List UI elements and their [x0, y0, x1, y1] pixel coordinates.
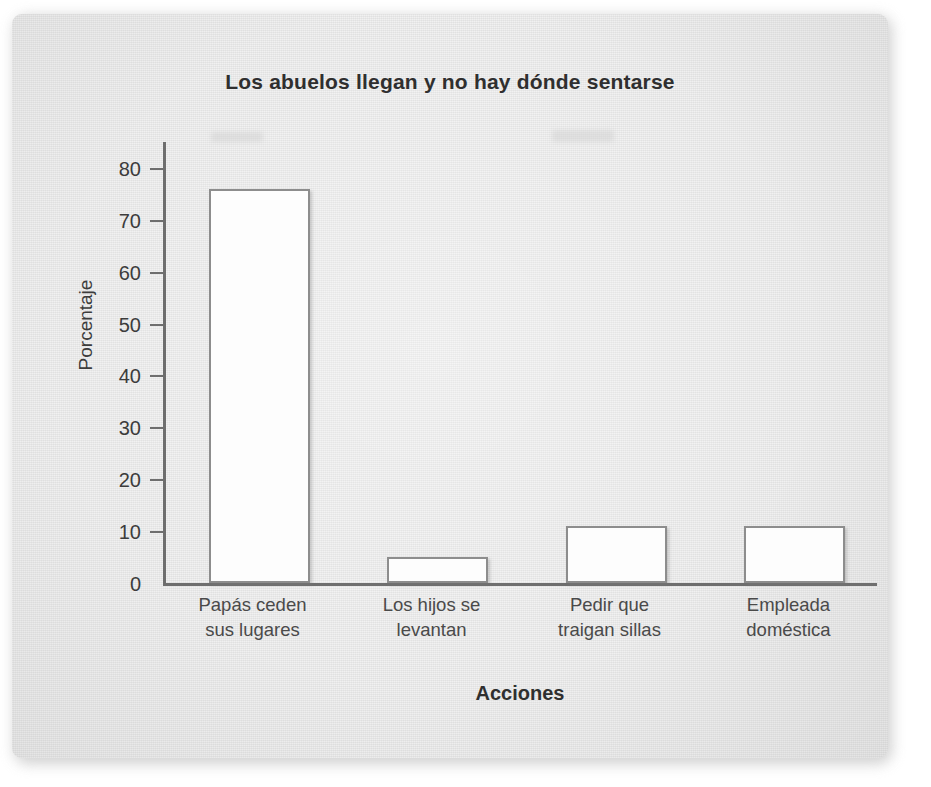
scan-smudge-left [211, 132, 263, 142]
y-tick-label: 70 [119, 209, 141, 232]
y-axis-title: Porcentaje [75, 245, 97, 405]
x-tick-label-line: levantan [342, 617, 521, 642]
y-tick-label: 50 [119, 313, 141, 336]
scanned-page: Los abuelos llegan y no hay dónde sentar… [0, 0, 931, 787]
x-tick-label-line: Los hijos se [342, 592, 521, 617]
y-tick-label: 40 [119, 365, 141, 388]
y-tick-mark: 70 [150, 220, 163, 222]
y-tick-mark: 10 [150, 531, 163, 533]
y-tick-mark: 60 [150, 272, 163, 274]
bar-3 [566, 526, 667, 583]
y-tick-mark: 40 [150, 375, 163, 377]
x-tick-label-1: Papás cedensus lugares [163, 592, 342, 642]
bar-2 [387, 557, 488, 583]
y-tick-mark: 0 [150, 583, 163, 585]
x-tick-label-2: Los hijos selevantan [342, 592, 521, 642]
chart-card: Los abuelos llegan y no hay dónde sentar… [12, 14, 888, 758]
y-axis-line [163, 142, 166, 586]
x-axis-line [163, 583, 877, 586]
x-tick-label-line: Empleada [699, 592, 878, 617]
y-tick-mark: 30 [150, 427, 163, 429]
y-tick-mark: 80 [150, 168, 163, 170]
x-tick-label-line: doméstica [699, 617, 878, 642]
x-tick-label-line: sus lugares [163, 617, 342, 642]
y-tick-label: 20 [119, 469, 141, 492]
x-axis-tick-labels: Papás cedensus lugaresLos hijos selevant… [163, 592, 877, 656]
x-tick-label-line: Pedir que [520, 592, 699, 617]
bar-1 [209, 189, 310, 583]
y-tick-label: 10 [119, 521, 141, 544]
y-tick-label: 30 [119, 417, 141, 440]
plot-area: 01020304050607080 [163, 142, 877, 586]
scan-smudge-right [552, 130, 614, 142]
bar-4 [744, 526, 845, 583]
x-tick-label-4: Empleadadoméstica [699, 592, 878, 642]
x-tick-label-line: traigan sillas [520, 617, 699, 642]
y-tick-label: 60 [119, 261, 141, 284]
x-tick-label-3: Pedir quetraigan sillas [520, 592, 699, 642]
y-tick-label: 0 [130, 573, 141, 596]
x-tick-label-line: Papás ceden [163, 592, 342, 617]
x-axis-title: Acciones [163, 682, 877, 705]
y-tick-mark: 20 [150, 479, 163, 481]
chart-title: Los abuelos llegan y no hay dónde sentar… [12, 70, 888, 94]
y-tick-label: 80 [119, 157, 141, 180]
y-tick-mark: 50 [150, 324, 163, 326]
